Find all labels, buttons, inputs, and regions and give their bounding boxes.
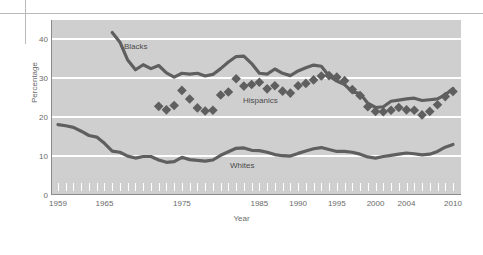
x-tick-label-2010: 2010 bbox=[444, 199, 462, 208]
series-label-whites: Whites bbox=[230, 161, 254, 170]
x-axis-tick-labels: 195919651975198519901995200020042010 bbox=[0, 199, 483, 213]
series-marker bbox=[208, 105, 218, 115]
x-tick-label-1985: 1985 bbox=[250, 199, 268, 208]
series-marker bbox=[231, 74, 241, 84]
x-tick-label-1995: 1995 bbox=[328, 199, 346, 208]
series-marker bbox=[286, 88, 296, 98]
x-tick-label-1959: 1959 bbox=[49, 199, 67, 208]
series-label-hispanics: Hispanics bbox=[243, 96, 278, 105]
x-tick-label-2004: 2004 bbox=[398, 199, 416, 208]
series-label-blacks: Blacks bbox=[124, 42, 148, 51]
series-markers-hispanics bbox=[154, 71, 458, 120]
series-marker bbox=[394, 103, 404, 113]
series-marker bbox=[386, 105, 396, 115]
x-tick-label-1975: 1975 bbox=[173, 199, 191, 208]
series-container bbox=[52, 20, 461, 195]
series-marker bbox=[185, 94, 195, 104]
series-marker bbox=[239, 81, 249, 91]
series-line-blacks bbox=[112, 32, 453, 107]
x-axis-title: Year bbox=[0, 214, 483, 223]
y-axis-title: Percentage bbox=[30, 43, 39, 123]
x-tick-label-1965: 1965 bbox=[96, 199, 114, 208]
series-marker bbox=[247, 80, 257, 90]
series-marker bbox=[278, 86, 288, 96]
series-marker bbox=[409, 105, 419, 115]
series-marker bbox=[448, 87, 458, 97]
series-marker bbox=[169, 101, 179, 111]
y-tick-label-10: 10 bbox=[26, 152, 48, 161]
series-marker bbox=[255, 77, 265, 87]
series-marker bbox=[293, 81, 303, 91]
series-line-whites bbox=[58, 125, 453, 163]
x-tick-label-2000: 2000 bbox=[367, 199, 385, 208]
poverty-rate-line-chart: 010203040 Percentage 1959196519751985199… bbox=[0, 0, 483, 255]
x-tick-label-1990: 1990 bbox=[289, 199, 307, 208]
series-marker bbox=[177, 86, 187, 96]
series-marker bbox=[433, 100, 443, 110]
